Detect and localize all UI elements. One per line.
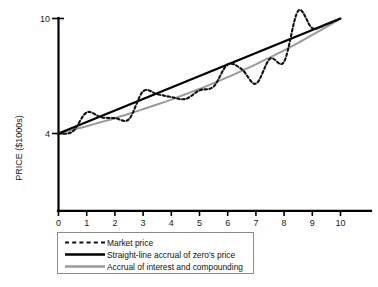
x-tick-label-8: 8 <box>282 218 287 228</box>
x-tick-label-5: 5 <box>197 218 202 228</box>
chart-legend: Market price Straight-line accrual of ze… <box>58 233 254 274</box>
x-tick-label-1: 1 <box>84 218 89 228</box>
legend-label-straight-line-accrual: Straight-line accrual of zero's price <box>107 250 236 260</box>
legend-label-market-price: Market price <box>107 238 153 248</box>
x-tick-label-0: 0 <box>56 218 61 228</box>
x-tick-labels: 0 1 2 3 4 5 6 7 8 9 10 <box>56 218 346 228</box>
x-tick-label-4: 4 <box>169 218 174 228</box>
y-axis-title: PRICE ($1000s) <box>14 115 24 181</box>
x-tick-label-10: 10 <box>335 218 345 228</box>
price-accrual-chart: PRICE ($1000s) 10 4 0 1 2 3 <box>0 0 378 287</box>
x-tick-label-6: 6 <box>225 218 230 228</box>
x-tick-label-7: 7 <box>253 218 258 228</box>
legend-label-accrual-of-interest: Accrual of interest and compounding <box>107 262 243 272</box>
x-tick-label-9: 9 <box>310 218 315 228</box>
chart-container: PRICE ($1000s) 10 4 0 1 2 3 <box>0 0 378 287</box>
y-tick-label-4: 4 <box>45 129 50 139</box>
x-tick-label-3: 3 <box>141 218 146 228</box>
y-tick-label-10: 10 <box>40 14 50 24</box>
series-line-straight-line-accrual <box>59 19 341 134</box>
x-tick-label-2: 2 <box>112 218 117 228</box>
